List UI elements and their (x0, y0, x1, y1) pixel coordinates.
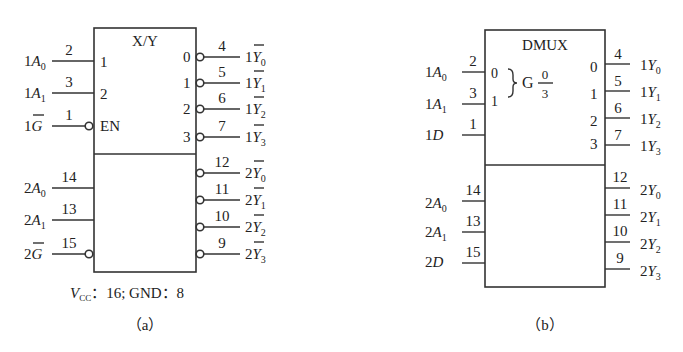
svg-text:3: 3 (590, 136, 598, 152)
inversion-bubble-icon (196, 105, 204, 113)
inversion-bubble-icon (196, 53, 204, 61)
output-2y3: 9 2Y3 (605, 250, 661, 282)
svg-text:G: G (522, 74, 534, 91)
svg-text:1: 1 (183, 75, 191, 91)
decoder-a-title: X/Y (132, 33, 158, 49)
svg-text:2Y2: 2Y2 (245, 219, 266, 238)
svg-text:9: 9 (218, 235, 226, 251)
svg-text:2: 2 (469, 53, 477, 69)
inversion-bubble-icon (196, 196, 204, 204)
svg-text:EN: EN (100, 118, 120, 134)
svg-text:10: 10 (215, 208, 230, 224)
svg-text:2Y0: 2Y0 (640, 182, 661, 201)
figure-b-caption: （b） (526, 317, 564, 333)
svg-text:1Y3: 1Y3 (245, 129, 266, 148)
inversion-bubble-icon (196, 223, 204, 231)
svg-text:13: 13 (466, 213, 481, 229)
svg-text:0: 0 (183, 49, 191, 65)
svg-text:1A1: 1A1 (425, 96, 447, 115)
inversion-bubble-icon (85, 122, 93, 130)
svg-text:1D: 1D (425, 127, 444, 143)
svg-text:4: 4 (614, 46, 622, 62)
output-2y3: 9 2Y3 (196, 235, 266, 265)
input-2a0: 14 2A0 (425, 182, 485, 214)
svg-text:11: 11 (613, 196, 627, 212)
svg-text:9: 9 (616, 250, 624, 266)
svg-text:2Y3: 2Y3 (245, 246, 266, 265)
svg-text:2Y1: 2Y1 (245, 192, 266, 211)
svg-text:1: 1 (100, 54, 108, 70)
svg-text:14: 14 (466, 182, 482, 198)
svg-text:1Y2: 1Y2 (245, 101, 266, 120)
decoder-a-box (94, 28, 196, 272)
svg-text:3: 3 (65, 74, 73, 90)
input-2a1: 13 2A1 (24, 201, 94, 231)
svg-text:2Y2: 2Y2 (640, 236, 661, 255)
svg-text:1A1: 1A1 (24, 85, 46, 104)
output-2y1: 11 2Y1 (196, 181, 266, 211)
svg-text:1G: 1G (24, 118, 43, 134)
svg-text:1A0: 1A0 (425, 64, 447, 83)
input-2g-enable: 15 2G (24, 235, 93, 262)
svg-text:3: 3 (469, 85, 477, 101)
figure-a-decoder-symbol: X/Y 2 1A0 1 3 1A1 2 1 1G EN 14 2A0 (24, 28, 266, 333)
svg-text:1: 1 (590, 86, 598, 102)
svg-text:3: 3 (542, 86, 549, 101)
input-2a1: 13 2A1 (425, 213, 485, 243)
svg-text:2A0: 2A0 (425, 195, 447, 214)
input-1d: 1 1D (425, 116, 485, 143)
svg-text:2: 2 (65, 42, 73, 58)
figure-a-caption: （a） (127, 317, 164, 333)
svg-text:4: 4 (218, 38, 226, 54)
svg-text:1: 1 (469, 116, 477, 132)
svg-text:2: 2 (590, 113, 598, 129)
figure-b-dmux-symbol: DMUX G 0 3 2 1A0 0 3 1A1 1 1 1D (425, 30, 661, 333)
svg-text:3: 3 (183, 129, 191, 145)
svg-text:1Y1: 1Y1 (640, 84, 661, 103)
svg-text:14: 14 (62, 169, 78, 185)
svg-text:15: 15 (62, 235, 77, 251)
svg-text:0: 0 (590, 59, 598, 75)
svg-text:7: 7 (218, 118, 226, 134)
svg-text:1: 1 (491, 94, 498, 109)
power-pin-note: VCC：16; GND：8 (70, 285, 184, 303)
svg-text:1: 1 (65, 107, 73, 123)
svg-text:6: 6 (614, 100, 622, 116)
svg-text:15: 15 (466, 244, 481, 260)
svg-text:12: 12 (215, 154, 230, 170)
svg-text:13: 13 (62, 201, 77, 217)
svg-text:2A0: 2A0 (24, 180, 46, 199)
svg-text:2A1: 2A1 (24, 212, 46, 231)
svg-text:0: 0 (542, 67, 549, 82)
svg-text:6: 6 (218, 90, 226, 106)
svg-text:1Y2: 1Y2 (640, 111, 661, 130)
svg-text:2Y3: 2Y3 (640, 263, 661, 282)
output-2y0: 12 2Y0 (196, 154, 266, 184)
input-2d: 15 2D (425, 244, 485, 270)
svg-text:2Y0: 2Y0 (245, 165, 266, 184)
dmux-title: DMUX (522, 37, 568, 53)
svg-text:2D: 2D (425, 254, 444, 270)
svg-text:11: 11 (215, 181, 229, 197)
svg-text:0: 0 (491, 66, 498, 81)
svg-text:2: 2 (183, 101, 191, 117)
svg-text:5: 5 (218, 64, 226, 80)
svg-text:1Y0: 1Y0 (640, 57, 661, 76)
svg-text:1Y0: 1Y0 (245, 49, 266, 68)
svg-text:2G: 2G (24, 246, 43, 262)
svg-text:2Y1: 2Y1 (640, 209, 661, 228)
inversion-bubble-icon (196, 250, 204, 258)
svg-text:2: 2 (100, 86, 108, 102)
svg-text:1A0: 1A0 (24, 53, 46, 72)
inversion-bubble-icon (196, 79, 204, 87)
svg-text:1Y3: 1Y3 (640, 138, 661, 157)
svg-text:5: 5 (614, 73, 622, 89)
inversion-bubble-icon (196, 169, 204, 177)
svg-text:2A1: 2A1 (425, 224, 447, 243)
output-2y2: 10 2Y2 (605, 223, 661, 255)
inversion-bubble-icon (85, 250, 93, 258)
output-2y2: 10 2Y2 (196, 208, 266, 238)
inversion-bubble-icon (196, 133, 204, 141)
svg-text:1Y1: 1Y1 (245, 75, 266, 94)
svg-text:10: 10 (613, 223, 628, 239)
